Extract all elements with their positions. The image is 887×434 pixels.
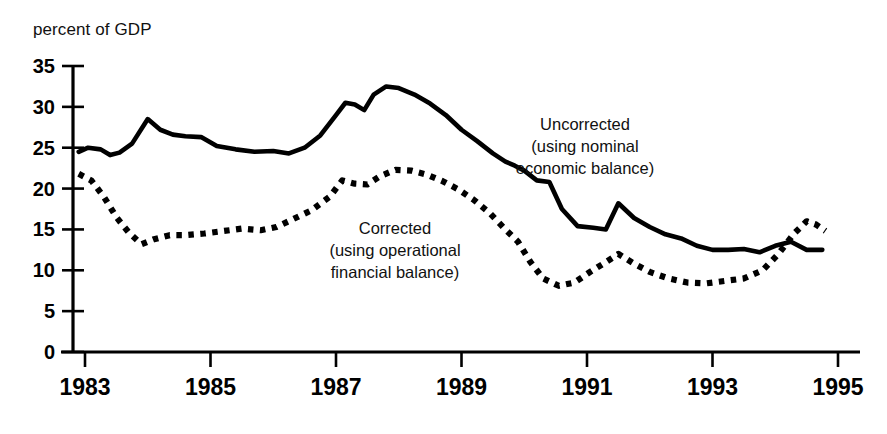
series-annotation-corrected: Corrected (using operational financial b… — [329, 218, 460, 284]
x-axis-tick-label: 1983 — [35, 374, 135, 401]
x-axis-tick-label: 1995 — [788, 374, 887, 401]
y-axis-tick-label: 20 — [11, 177, 55, 200]
y-axis-tick-label: 10 — [11, 259, 55, 282]
x-axis-tick-label: 1989 — [412, 374, 512, 401]
x-axis-tick-label: 1991 — [537, 374, 637, 401]
x-axis-tick-label: 1993 — [663, 374, 763, 401]
x-axis-tick-label: 1987 — [286, 374, 386, 401]
chart-axes — [61, 66, 860, 367]
y-axis-tick-label: 15 — [11, 218, 55, 241]
y-axis-tick-label: 0 — [11, 341, 55, 364]
series-annotation-uncorrected: Uncorrected (using nominal economic bala… — [516, 114, 655, 180]
x-axis-tick-label: 1985 — [161, 374, 261, 401]
y-axis-tick-label: 35 — [11, 55, 55, 78]
y-axis-tick-label: 30 — [11, 95, 55, 118]
y-axis-tick-label: 5 — [11, 300, 55, 323]
y-axis-tick-label: 25 — [11, 136, 55, 159]
chart-plot-area — [0, 0, 887, 434]
chart-container: percent of GDP 05101520253035 1983198519… — [0, 0, 887, 434]
